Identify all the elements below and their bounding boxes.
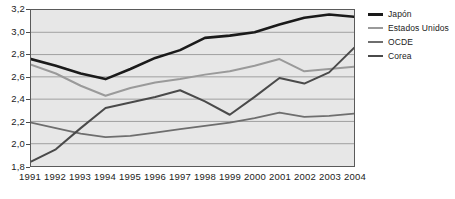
x-tick-label-1999: 1999 (219, 172, 241, 182)
legend-item-estados-unidos[interactable]: Estados Unidos (368, 22, 455, 34)
x-tick-label-1994: 1994 (94, 172, 116, 182)
x-tick-label-1998: 1998 (194, 172, 216, 182)
x-tick-label-2002: 2002 (294, 172, 316, 182)
legend-label: Corea (388, 52, 412, 61)
series-line-estados-unidos (31, 59, 354, 96)
x-tick-label-1993: 1993 (69, 172, 91, 182)
y-tick-label-4: 2,6 (11, 72, 25, 82)
x-tick-label-2004: 2004 (344, 172, 366, 182)
y-tick-label-3: 2,4 (11, 95, 25, 105)
legend-swatch-icon (368, 41, 383, 44)
x-tick-label-1995: 1995 (119, 172, 141, 182)
chart-legend: JapónEstados UnidosOCDECorea (368, 8, 455, 64)
series-line-corea (31, 48, 354, 162)
legend-swatch-icon (368, 13, 383, 16)
legend-swatch-icon (368, 55, 383, 58)
y-tick-label-1: 2,0 (11, 140, 25, 150)
x-tick-label-2001: 2001 (269, 172, 291, 182)
y-tick-mark-0 (26, 167, 30, 168)
y-tick-label-6: 3,0 (11, 27, 25, 37)
legend-label: OCDE (388, 38, 413, 47)
x-tick-label-1992: 1992 (44, 172, 66, 182)
chart-container: 1,82,02,22,42,62,83,03,2 199119921993199… (0, 0, 455, 199)
plot-area (30, 9, 355, 167)
x-tick-label-1996: 1996 (144, 172, 166, 182)
series-line-japón (31, 14, 354, 79)
x-tick-label-2003: 2003 (319, 172, 341, 182)
legend-label: Estados Unidos (388, 24, 449, 33)
series-line-ocde (31, 113, 354, 138)
plot-lines (31, 10, 354, 166)
x-axis: 1991199219931994199519961997199819992000… (30, 172, 355, 188)
x-tick-label-1997: 1997 (169, 172, 191, 182)
legend-item-japón[interactable]: Japón (368, 8, 455, 20)
legend-item-corea[interactable]: Corea (368, 50, 455, 62)
y-tick-label-5: 2,8 (11, 49, 25, 59)
legend-item-ocde[interactable]: OCDE (368, 36, 455, 48)
legend-label: Japón (388, 10, 412, 19)
y-tick-label-7: 3,2 (11, 4, 25, 14)
legend-swatch-icon (368, 27, 383, 29)
x-tick-label-1991: 1991 (19, 172, 41, 182)
x-tick-label-2000: 2000 (244, 172, 266, 182)
y-axis: 1,82,02,22,42,62,83,03,2 (0, 0, 30, 180)
y-tick-label-2: 2,2 (11, 117, 25, 127)
